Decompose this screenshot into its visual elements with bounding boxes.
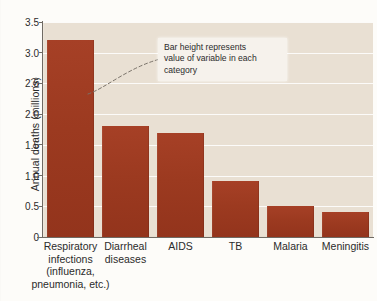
x-axis-category-label-line: pneumonia, etc.)	[28, 278, 114, 291]
annotation-line: Bar height represents	[164, 42, 281, 53]
y-axis-tick-labels: 3.53.02.52.01.51.00.50	[21, 22, 43, 237]
bar	[157, 133, 203, 237]
bar	[47, 40, 93, 237]
x-axis-category-labels: Respiratoryinfections(influenza,pneumoni…	[43, 240, 373, 300]
y-axis-tick-label: 1.0	[25, 170, 39, 181]
x-axis-line	[37, 237, 374, 238]
x-axis-category-label-line: diseases	[83, 253, 169, 266]
y-axis-tick-label: 3.5	[25, 17, 39, 28]
x-axis-category-label: Meningitis	[303, 240, 377, 253]
annotation-line: category	[164, 65, 281, 76]
y-axis-tick-label: 1.5	[25, 139, 39, 150]
bar	[102, 126, 148, 237]
bar	[267, 206, 313, 237]
x-axis-category-label-line: Meningitis	[303, 240, 377, 253]
bar	[212, 181, 258, 238]
x-axis-category-label-line: (influenza,	[28, 265, 114, 278]
bar	[322, 212, 368, 237]
y-axis-tick-label: 0.5	[25, 201, 39, 212]
y-axis-tick-label: 2.5	[25, 78, 39, 89]
bar-chart-figure: Annual deaths (millions) 3.53.02.52.01.5…	[0, 0, 377, 301]
annotation-callout: Bar height representsvalue of variable i…	[158, 38, 287, 81]
y-axis-tick-label: 3.0	[25, 47, 39, 58]
annotation-line: value of variable in each	[164, 53, 281, 64]
y-axis-tick-label: 2.0	[25, 109, 39, 120]
